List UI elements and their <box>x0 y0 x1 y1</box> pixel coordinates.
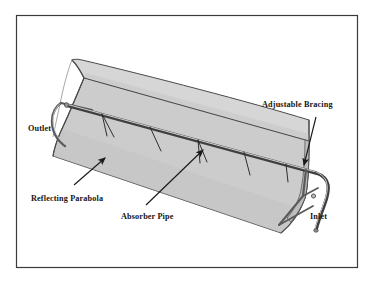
label-absorber-pipe: Absorber Pipe <box>121 212 174 221</box>
label-inlet: Inlet <box>310 212 327 221</box>
figure-container: Outlet Reflecting Parabola Absorber Pipe… <box>0 0 376 288</box>
inlet-pipe-opening <box>314 229 318 232</box>
parabolic-trough-diagram: Outlet Reflecting Parabola Absorber Pipe… <box>0 0 376 288</box>
label-outlet: Outlet <box>28 124 51 133</box>
label-adjustable-bracing: Adjustable Bracing <box>262 100 333 109</box>
label-reflecting-parabola: Reflecting Parabola <box>31 194 103 203</box>
bracing-pivot-joint <box>311 194 315 198</box>
absorber-pipe-outlet-cap <box>65 103 69 108</box>
